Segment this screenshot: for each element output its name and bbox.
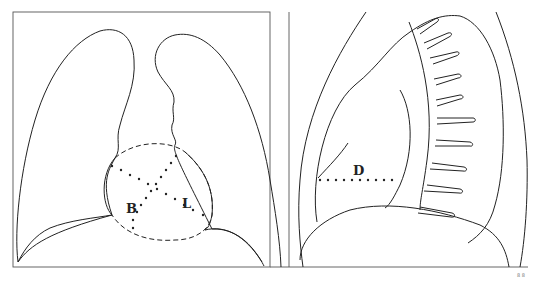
- label-d: D: [353, 163, 364, 178]
- heart-silhouette: [112, 144, 212, 241]
- lateral-lung-outline: [315, 16, 503, 243]
- left-panel-edge-curve: [270, 180, 281, 267]
- broad-axis-dots: [132, 155, 177, 229]
- diaphragm-right: [18, 215, 112, 262]
- posterior-chest-wall: [496, 12, 527, 267]
- left-lung-outline: [155, 34, 270, 266]
- lateral-panel: [270, 12, 528, 267]
- heart-posterior-border: [385, 90, 410, 208]
- ribs: [417, 18, 475, 217]
- label-b: B: [126, 201, 137, 216]
- corner-mark: 8 8: [517, 272, 525, 278]
- frontal-panel: [13, 12, 270, 267]
- frontal-measurements: [111, 155, 204, 229]
- lateral-diaphragm: [300, 206, 509, 267]
- chest-diagram: B L D 8 8: [0, 0, 537, 283]
- anterior-chest-wall: [299, 12, 366, 267]
- right-lung-outline: [17, 30, 134, 262]
- spine-border: [409, 22, 429, 210]
- depth-measurement-dots: [319, 179, 393, 181]
- heart-anterior-small: [318, 143, 348, 178]
- heart-right-border: [185, 152, 212, 230]
- frontal-frame: [13, 12, 270, 267]
- label-l: L: [182, 196, 191, 211]
- diaphragm-left: [205, 229, 262, 262]
